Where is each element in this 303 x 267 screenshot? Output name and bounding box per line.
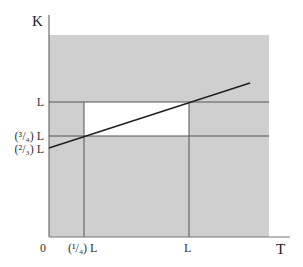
x-tick-label-l: L <box>184 242 191 254</box>
k-t-diagram: K T 0 L (³/₄) L (²/₃) L (¹/₄) L L <box>0 0 303 267</box>
diagram-canvas <box>0 0 303 267</box>
y-tick-label-two-thirds-l: (²/₃) L <box>0 143 44 155</box>
y-tick-label-three-quarters-l: (³/₄) L <box>0 130 44 142</box>
y-axis-label: K <box>32 14 43 29</box>
x-tick-label-quarter-l: (¹/₄) L <box>68 242 97 254</box>
x-axis-label: T <box>276 242 285 257</box>
origin-label: 0 <box>40 242 46 254</box>
y-tick-label-l: L <box>0 96 44 108</box>
